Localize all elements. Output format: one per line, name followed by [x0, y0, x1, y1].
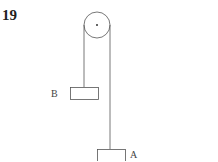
label-block-a: A	[130, 149, 137, 160]
block-b	[71, 88, 99, 100]
pulley-axle	[96, 24, 98, 26]
block-a	[98, 150, 126, 162]
label-block-b: B	[51, 88, 58, 99]
pulley-diagram	[0, 0, 218, 161]
